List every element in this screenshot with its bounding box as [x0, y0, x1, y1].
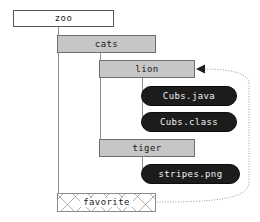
- node-cats[interactable]: cats: [57, 35, 156, 53]
- node-cats-label: cats: [95, 40, 118, 49]
- node-cubs-java-label: Cubs.java: [163, 92, 215, 101]
- node-cubs-java[interactable]: Cubs.java: [141, 86, 237, 106]
- node-tiger-label: tiger: [132, 144, 161, 153]
- node-lion[interactable]: lion: [99, 60, 195, 78]
- node-zoo[interactable]: zoo: [13, 10, 114, 27]
- node-lion-label: lion: [135, 65, 158, 74]
- node-zoo-label: zoo: [55, 14, 72, 23]
- reference-edge-favorite-to-lion: [0, 0, 260, 222]
- node-stripes-png-label: stripes.png: [158, 170, 222, 179]
- connector-zoo-to-children: [58, 27, 59, 203]
- node-tiger[interactable]: tiger: [99, 139, 195, 157]
- node-cubs-class[interactable]: Cubs.class: [141, 112, 237, 132]
- arrowhead-icon: [196, 65, 205, 74]
- node-cubs-class-label: Cubs.class: [160, 118, 218, 127]
- node-stripes-png[interactable]: stripes.png: [141, 164, 240, 184]
- node-favorite[interactable]: favorite: [57, 193, 156, 212]
- node-favorite-label: favorite: [80, 198, 133, 207]
- diagram-canvas: zoo cats lion Cubs.java Cubs.class tiger…: [0, 0, 260, 222]
